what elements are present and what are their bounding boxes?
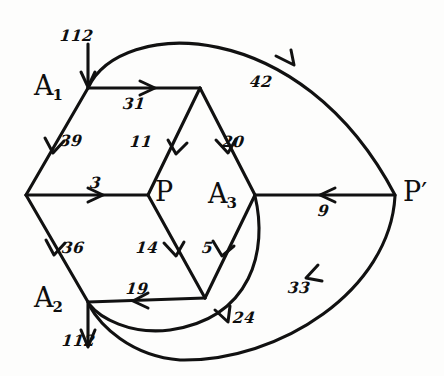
edge-a1-arc-pprime	[88, 43, 395, 195]
edge-label-a3-to-bottom: 5	[201, 240, 214, 256]
edge-label-left-to-p: 3	[89, 175, 102, 191]
diagram-canvas: A1 A2 A3 P P′ 112 31 39 11 20 42 3 36 14…	[0, 0, 444, 376]
edge-left-to-p	[26, 188, 148, 202]
edge-label-pprime-to-a3: 9	[317, 203, 330, 219]
node-label-a3: A3	[208, 180, 237, 211]
node-label-a1-text: A	[34, 70, 54, 101]
node-label-pprime-mark: ′	[421, 177, 427, 207]
edge-label-top-to-a3: 20	[221, 134, 245, 150]
node-label-a2-text: A	[34, 282, 54, 313]
node-label-pprime-text: P	[403, 176, 421, 207]
edge-label-a3-arc-a2: 24	[232, 310, 256, 326]
node-label-pprime: P′	[403, 178, 427, 205]
edge-label-top-to-p: 11	[129, 134, 153, 150]
edge-label-a1-to-left: 39	[59, 133, 83, 149]
edge-label-demand-out-a2: 112	[61, 333, 96, 349]
node-label-p: P	[155, 178, 173, 205]
edge-label-a1-to-top: 31	[122, 96, 146, 112]
edge-label-left-to-a2: 36	[61, 240, 85, 256]
node-label-a1: A1	[34, 72, 63, 103]
edge-label-bottom-to-a2: 19	[125, 281, 149, 297]
node-label-a2-sub: 2	[53, 298, 63, 316]
node-label-a3-sub: 3	[227, 194, 237, 212]
node-label-a2: A2	[34, 284, 63, 315]
node-label-p-text: P	[155, 176, 173, 207]
node-label-a3-text: A	[208, 178, 228, 209]
edge-label-p-to-bottom: 14	[135, 240, 159, 256]
edge-a1-to-top	[88, 81, 200, 95]
node-label-a1-sub: 1	[53, 86, 63, 104]
edge-pprime-to-a3	[255, 188, 395, 202]
edge-label-pprime-arc-a2: 33	[287, 280, 311, 296]
edge-label-a1-arc-pprime: 42	[249, 74, 273, 90]
edge-label-supply-in-a1: 112	[59, 28, 94, 44]
